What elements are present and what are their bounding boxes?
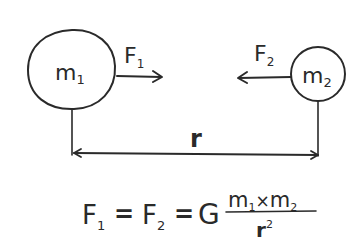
formula-constant-g: G <box>198 198 220 231</box>
mass-1-label: m1 <box>55 60 85 87</box>
formula-equals-1: = <box>114 200 134 228</box>
distance-arrow-line <box>74 153 318 155</box>
distance-indicator: r <box>72 101 318 159</box>
force-1-label: F1 <box>124 43 144 71</box>
gravitation-diagram: m1 F1 m2 F2 r F1 = F2 = G m1×m2 r2 <box>0 0 363 252</box>
gravitation-formula: F1 = F2 = G m1×m2 r2 <box>82 188 316 242</box>
force-2: F2 <box>238 41 291 83</box>
formula-denominator: r2 <box>256 218 273 242</box>
formula-numerator: m1×m2 <box>228 188 297 214</box>
distance-label: r <box>190 125 202 153</box>
force-2-label: F2 <box>254 41 274 69</box>
formula-f1: F1 <box>82 200 105 233</box>
mass-1: m1 <box>28 30 115 109</box>
force-1: F1 <box>117 43 162 82</box>
mass-2-label: m2 <box>302 63 332 90</box>
formula-equals-2: = <box>174 200 194 228</box>
force-1-arrow-shaft <box>117 76 161 77</box>
formula-f2: F2 <box>142 200 165 233</box>
formula-fraction-bar <box>226 211 316 212</box>
mass-2: m2 <box>291 47 345 101</box>
force-2-arrow-shaft <box>239 77 291 78</box>
